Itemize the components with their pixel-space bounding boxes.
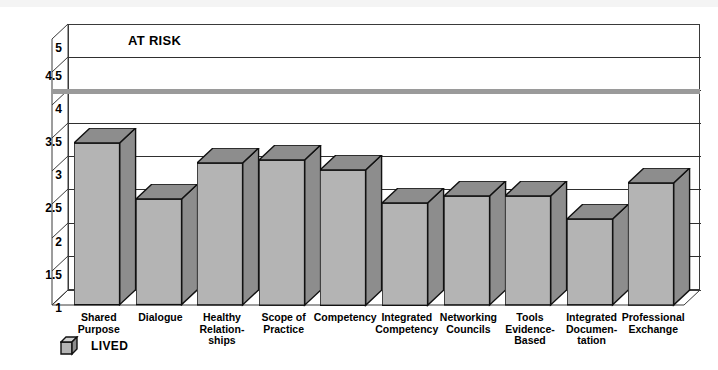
x-axis-category-labels: SharedPurposeDialogueHealthyRelation-shi… (0, 0, 718, 370)
legend-label-lived: LIVED (91, 339, 128, 353)
legend: LIVED (60, 336, 128, 356)
cube-icon (60, 336, 82, 356)
x-axis-category-label: ProfessionalExchange (615, 312, 691, 335)
bar-chart-3d: 5 4.5 4 3.5 3 2.5 2 1.5 1 AT RISK Shared… (0, 0, 718, 370)
